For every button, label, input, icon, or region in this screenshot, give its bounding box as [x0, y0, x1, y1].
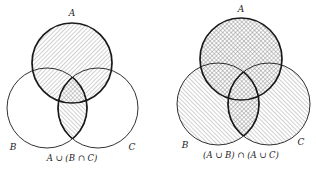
venn-right: A B C (A ∪ B) ∩ (A ∪ C) — [177, 4, 310, 160]
venn-left: A B C A ∪ (B ∩ C) — [7, 8, 138, 163]
label-b: B — [9, 142, 17, 152]
label-c: C — [298, 137, 305, 147]
label-c: C — [129, 142, 136, 152]
caption-right: (A ∪ B) ∩ (A ∪ C) — [203, 150, 279, 160]
venn-diagrams-figure: A B C A ∪ (B ∩ C) A B C (A ∪ B) ∩ (A ∪ C… — [0, 0, 316, 171]
label-a: A — [237, 4, 245, 14]
label-b: B — [181, 140, 189, 150]
label-a: A — [68, 8, 76, 18]
caption-left: A ∪ (B ∩ C) — [46, 153, 98, 163]
